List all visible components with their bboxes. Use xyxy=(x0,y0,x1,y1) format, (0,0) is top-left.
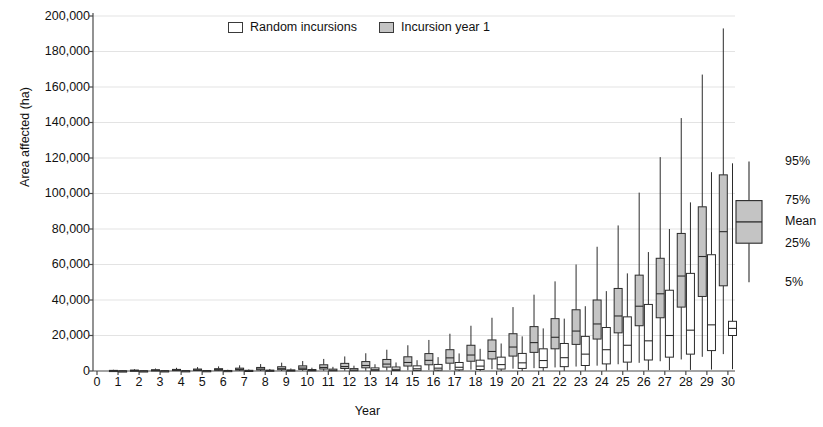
boxplot-box xyxy=(266,369,274,371)
boxplot-box xyxy=(614,225,622,364)
boxplot-box xyxy=(488,318,496,369)
legend-item-incursion-year-1: Incursion year 1 xyxy=(379,20,490,34)
boxplot-box xyxy=(173,368,181,371)
boxplot-box xyxy=(497,343,505,371)
boxplot-box xyxy=(572,265,580,367)
boxplot-box xyxy=(656,157,664,361)
boxplot-box xyxy=(446,334,454,370)
boxplot-box xyxy=(371,364,379,371)
boxplot-box xyxy=(677,118,685,359)
boxplot-box xyxy=(551,281,559,367)
boxplot-box xyxy=(392,362,400,371)
legend-label-random-incursions: Random incursions xyxy=(250,20,357,34)
boxplot-box xyxy=(644,252,652,370)
boxplot-box xyxy=(509,307,517,369)
chart-root: Area affected (ha) Year 200,000180,00016… xyxy=(0,0,823,427)
boxplot-box xyxy=(698,75,706,357)
boxplot-box xyxy=(729,163,737,369)
boxplot-box xyxy=(224,370,232,372)
boxplot-box xyxy=(635,193,643,363)
boxplot-box xyxy=(539,328,547,370)
boxplot-box xyxy=(203,370,211,372)
chart-legend: Random incursions Incursion year 1 xyxy=(228,20,490,34)
legend-swatch-open-icon xyxy=(228,22,243,33)
boxplot-box xyxy=(455,353,463,371)
boxplot-box xyxy=(287,368,295,371)
key-label-75pct: 75% xyxy=(785,194,810,207)
boxplot-box xyxy=(425,340,433,370)
boxplot-box xyxy=(194,367,202,371)
boxplot-box xyxy=(413,360,421,371)
boxplot-box xyxy=(665,229,673,370)
boxplot-box xyxy=(299,361,307,371)
boxplot-box xyxy=(245,369,253,371)
boxplot-box xyxy=(308,368,316,371)
boxplot-box xyxy=(151,369,159,371)
boxplot-box xyxy=(350,366,358,371)
boxplot-box xyxy=(476,349,484,371)
boxplot-box xyxy=(320,359,328,371)
legend-swatch-filled-icon xyxy=(379,22,394,33)
key-label-mean: Mean xyxy=(785,215,816,228)
boxplot-canvas xyxy=(0,0,823,427)
key-label-25pct: 25% xyxy=(785,237,810,250)
boxplot-box xyxy=(623,273,631,370)
boxplot-box xyxy=(719,28,727,354)
boxplot-box xyxy=(119,371,127,372)
boxplot-box xyxy=(530,295,538,368)
boxplot-box xyxy=(329,367,337,371)
boxplot-box xyxy=(182,370,190,372)
key-boxplot xyxy=(736,162,762,283)
boxplot-box xyxy=(686,202,694,370)
boxplot-box xyxy=(467,326,475,370)
boxplot-box xyxy=(236,365,244,371)
boxplot-box xyxy=(581,306,589,370)
boxplot-box xyxy=(707,172,715,369)
boxplot-box xyxy=(518,336,526,371)
boxplot-box xyxy=(404,345,412,370)
boxplot-box xyxy=(362,353,370,370)
boxplot-box xyxy=(602,291,610,371)
key-label-95pct: 95% xyxy=(785,155,810,168)
boxplot-box xyxy=(109,370,117,372)
boxplot-box xyxy=(434,357,442,371)
boxplot-box xyxy=(215,366,223,371)
boxplot-box xyxy=(257,364,265,371)
legend-label-incursion-year-1: Incursion year 1 xyxy=(401,20,490,34)
boxplot-box xyxy=(140,371,148,372)
boxplot-box xyxy=(560,319,568,371)
boxplot-box xyxy=(161,370,169,372)
key-label-5pct: 5% xyxy=(785,276,803,289)
boxplot-box xyxy=(383,350,391,371)
legend-item-random-incursions: Random incursions xyxy=(228,20,357,34)
boxplot-box xyxy=(130,369,138,371)
boxplot-box xyxy=(278,363,286,371)
boxplot-box xyxy=(341,356,349,370)
